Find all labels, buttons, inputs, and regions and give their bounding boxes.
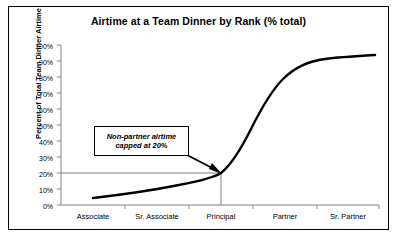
x-tick-label-sr-partner: Sr. Partner — [330, 212, 366, 221]
plot-area — [9, 7, 390, 231]
annotation-text-line-2: capped at 20% — [115, 141, 167, 150]
annotation-callout: Non-partner airtime capped at 20% — [94, 126, 189, 156]
x-tick-label-partner: Partner — [273, 212, 298, 221]
annotation-text-line-1: Non-partner airtime — [107, 132, 177, 141]
x-tick-label-principal: Principal — [207, 212, 236, 221]
x-tick-label-associate: Associate — [77, 212, 110, 221]
chart-container: Airtime at a Team Dinner by Rank (% tota… — [8, 6, 389, 230]
annotation-arrow-head — [209, 163, 222, 174]
x-axis-ticks — [125, 205, 379, 209]
y-axis-ticks — [57, 45, 61, 205]
x-tick-label-sr-associate: Sr. Associate — [135, 212, 178, 221]
